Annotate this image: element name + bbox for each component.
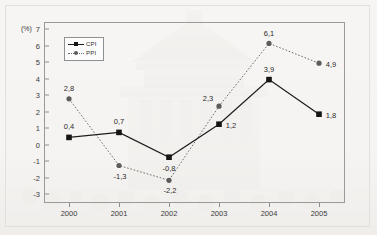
- data-label-cpi: 1,8: [326, 110, 336, 119]
- data-label-ppi: 2,3: [203, 94, 213, 103]
- series-markers-ppi: [66, 41, 321, 183]
- data-label-ppi: -1,3: [114, 172, 127, 181]
- data-label-cpi: 3,9: [264, 65, 274, 74]
- data-label-ppi: -2,2: [164, 186, 177, 195]
- data-label-ppi: 2,8: [64, 84, 74, 93]
- legend-swatch-cpi-square-icon: [68, 41, 84, 48]
- legend-item-cpi[interactable]: CPI: [68, 40, 100, 49]
- data-label-ppi: 4,9: [326, 59, 336, 68]
- data-label-cpi: -0,8: [163, 164, 176, 173]
- data-label-cpi: 0,4: [64, 122, 74, 131]
- data-label-ppi: 6,1: [264, 29, 274, 38]
- legend-label-cpi: CPI: [86, 41, 97, 48]
- chart-legend: CPI PPI: [64, 37, 104, 61]
- legend-item-ppi[interactable]: PPI: [68, 49, 100, 58]
- legend-label-ppi: PPI: [86, 50, 96, 57]
- data-label-cpi: 0,7: [114, 117, 124, 126]
- legend-swatch-ppi-circle-icon: [68, 50, 84, 57]
- series-line-ppi: [69, 43, 319, 180]
- series-line-cpi: [69, 80, 319, 158]
- chart-page: (%) 7 6 5 4 3 2 1 0 -1 -2 -3 2000 2001 2…: [0, 0, 377, 235]
- data-label-cpi: 1,2: [226, 121, 236, 130]
- chart-plot: [0, 0, 377, 235]
